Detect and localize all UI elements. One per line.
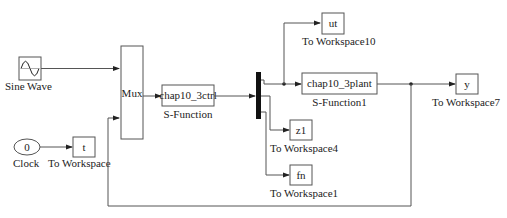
to-workspace-y-block[interactable]: y: [456, 74, 478, 94]
to-workspace-z1-var: z1: [296, 124, 306, 136]
ctrl-sfunction-block[interactable]: chap10_3ctrl: [159, 85, 216, 106]
sine-wave-block[interactable]: [19, 57, 41, 80]
to-workspace-ut-block[interactable]: ut: [322, 13, 344, 34]
block-diagram: Sine Wave 0 Clock t To Workspace Mux cha…: [0, 0, 507, 218]
mux-block[interactable]: Mux: [121, 46, 143, 139]
to-workspace-y-var: y: [464, 78, 470, 90]
to-workspace-y-label: To Workspace7: [432, 96, 501, 108]
to-workspace-t-var: t: [82, 141, 85, 153]
to-workspace-t-label: To Workspace: [48, 157, 111, 169]
sine-wave-label: Sine Wave: [5, 80, 52, 92]
to-workspace-z1-label: To Workspace4: [270, 142, 339, 154]
to-workspace-ut-label: To Workspace10: [302, 35, 376, 47]
clock-label: Clock: [13, 157, 40, 169]
to-workspace-fn-label: To Workspace1: [270, 187, 338, 199]
ctrl-sfunction-label: S-Function: [164, 108, 213, 120]
clock-block[interactable]: 0: [14, 139, 40, 155]
to-workspace-fn-var: fn: [296, 169, 306, 181]
mux-label: Mux: [122, 87, 143, 99]
plant-sfunction-block[interactable]: chap10_3plant: [302, 73, 377, 94]
plant-sfunction-name: chap10_3plant: [307, 77, 372, 89]
clock-value: 0: [24, 141, 30, 153]
plant-sfunction-label: S-Function1: [312, 96, 366, 108]
to-workspace-fn-block[interactable]: fn: [290, 165, 312, 185]
to-workspace-ut-var: ut: [329, 17, 338, 29]
to-workspace-z1-block[interactable]: z1: [290, 120, 312, 140]
to-workspace-t-block[interactable]: t: [73, 137, 95, 157]
demux-block[interactable]: [256, 72, 261, 119]
ctrl-sfunction-name: chap10_3ctrl: [159, 89, 216, 101]
wire-demux-out2: [261, 96, 289, 130]
